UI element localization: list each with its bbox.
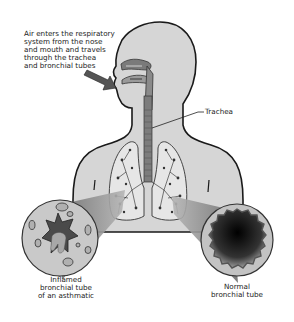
normal-tube-caption: Normal bronchial tube bbox=[200, 283, 274, 299]
air-arrow-icon bbox=[84, 70, 116, 90]
trachea-label: Trachea bbox=[205, 108, 233, 116]
normal-line-2: bronchial tube bbox=[200, 291, 274, 299]
inflamed-line-3: of an asthmatic bbox=[30, 292, 102, 300]
inflamed-tube-caption: Inflamed bronchial tube of an asthmatic bbox=[30, 276, 102, 300]
normal-bronchial-tube bbox=[201, 204, 273, 276]
inflamed-bronchial-tube bbox=[22, 200, 98, 276]
intro-caption: Air enters the respiratory system from t… bbox=[24, 30, 124, 70]
respiratory-diagram: Air enters the respiratory system from t… bbox=[0, 0, 294, 322]
intro-line-5: and bronchial tubes bbox=[24, 62, 124, 70]
trachea bbox=[144, 96, 152, 182]
